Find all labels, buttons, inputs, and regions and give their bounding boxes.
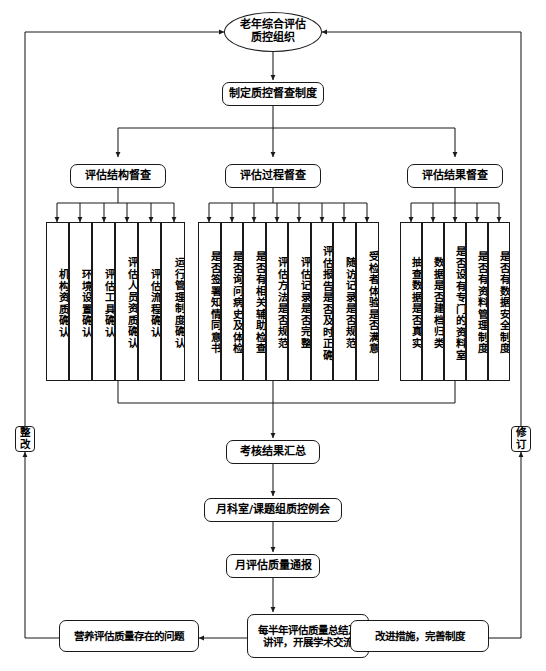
- node-summary[interactable]: 考核结果汇总: [226, 440, 320, 464]
- node-policy[interactable]: 制定质控督查制度: [222, 82, 324, 106]
- flowchart-canvas: 老年综合评估 质控组织 制定质控督查制度 评估结构督查 评估过程督查 评估结果督…: [0, 0, 546, 671]
- vcol-result-5[interactable]: 是否有数据安全制度: [488, 222, 510, 381]
- vcol-process-3[interactable]: 是否有相关辅助检查: [243, 222, 266, 381]
- vcol-process-1[interactable]: 是否签署知情同意书: [198, 222, 221, 381]
- branch-header-result[interactable]: 评估结果督查: [407, 164, 503, 188]
- node-report[interactable]: 月评估质量通报: [226, 554, 320, 578]
- node-meeting[interactable]: 月科室/课题组质控例会: [204, 498, 342, 522]
- vcol-structure-6[interactable]: 运行管理制度确认: [161, 222, 185, 381]
- vcol-structure-2[interactable]: 环境设置确认: [69, 222, 92, 381]
- vcol-result-2[interactable]: 数据是否建档归类: [422, 222, 444, 381]
- vcol-structure-5[interactable]: 评估流程确认: [138, 222, 161, 381]
- vcol-structure-3[interactable]: 评估工具确认: [92, 222, 115, 381]
- vcol-process-4[interactable]: 评估方法是否规范: [266, 222, 288, 381]
- node-improve[interactable]: 改进措施，完善制度: [350, 620, 489, 652]
- branch-header-process[interactable]: 评估过程督查: [225, 164, 321, 188]
- vcol-structure-1[interactable]: 机构资质确认: [46, 222, 69, 381]
- vcol-process-6[interactable]: 评估报告是否及时正确: [311, 222, 333, 381]
- review-line-1: 每半年评估质量总结及: [258, 624, 358, 636]
- node-problems[interactable]: 营养评估质量存在的问题: [59, 620, 199, 652]
- side-label-revise[interactable]: 修订: [511, 426, 531, 452]
- branch-header-structure[interactable]: 评估结构督查: [70, 164, 166, 188]
- vcol-process-2[interactable]: 是否询问病史及体检: [221, 222, 243, 381]
- node-root-organization[interactable]: 老年综合评估 质控组织: [224, 12, 322, 52]
- review-line-2: 讲评，开展学术交流: [258, 636, 358, 648]
- root-line-2: 质控组织: [240, 32, 306, 45]
- vcol-result-4[interactable]: 是否有资料管理制度: [466, 222, 488, 381]
- vcol-process-5[interactable]: 评估记录是否完整: [288, 222, 311, 381]
- vcol-result-3[interactable]: 是否设有专门的资料室: [444, 222, 466, 381]
- side-label-rectify[interactable]: 整改: [15, 426, 35, 452]
- vcol-process-8[interactable]: 受检者体验是否满意: [356, 222, 379, 381]
- vcol-result-1[interactable]: 抽查数据是否真实: [400, 222, 422, 381]
- vcol-process-7[interactable]: 随访记录是否规范: [333, 222, 356, 381]
- vcol-structure-4[interactable]: 评估人员资质确认: [115, 222, 138, 381]
